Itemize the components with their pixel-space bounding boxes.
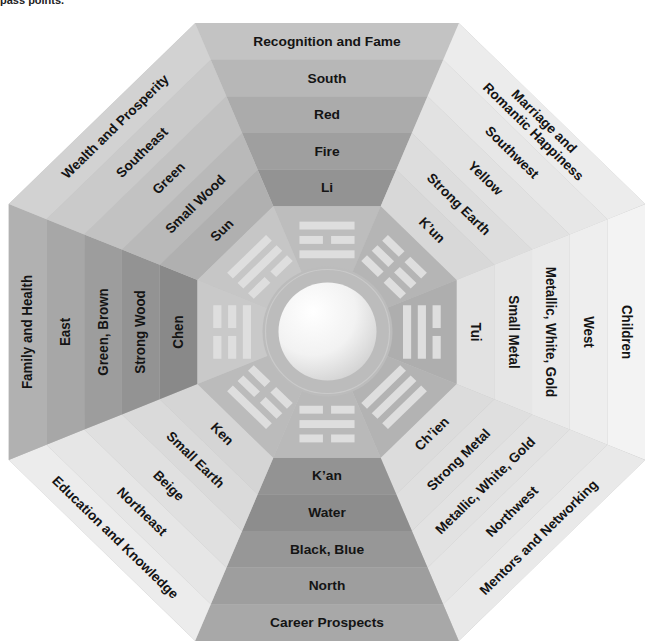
color-label: Black, Blue	[290, 542, 365, 557]
color-label: Green, Brown	[95, 288, 110, 375]
trigram-label: Chen	[171, 315, 186, 348]
direction-label: West	[581, 316, 596, 348]
direction-label: North	[309, 579, 346, 594]
bagua-map-diagram: Recognition and Fame South Red Fire Li M…	[0, 0, 645, 642]
area-label: Children	[619, 305, 634, 359]
center-circle	[279, 283, 377, 381]
trigram-label: K’an	[312, 469, 342, 484]
element-label: Fire	[314, 144, 340, 159]
color-label: Red	[314, 107, 340, 122]
element-label: Strong Wood	[133, 290, 148, 374]
trigram-label: Li	[321, 181, 333, 196]
color-label: Metallic, White, Gold	[543, 267, 558, 397]
area-label: Family and Health	[20, 275, 35, 389]
area-label: Recognition and Fame	[253, 34, 401, 49]
direction-label: East	[58, 317, 73, 346]
element-label: Water	[308, 505, 346, 520]
direction-label: South	[308, 71, 347, 86]
area-label: Career Prospects	[270, 615, 384, 630]
trigram-label: Tui	[468, 322, 483, 341]
center-medallion	[263, 267, 393, 397]
element-label: Small Metal	[506, 295, 521, 368]
